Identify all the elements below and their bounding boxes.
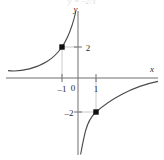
point-marker-neg1-2 — [59, 44, 64, 49]
curve-right-branch — [81, 81, 158, 154]
y-tick-label-neg2: –2 — [64, 108, 74, 118]
graph-figure: y = -2/x y x –1 1 0 2 –2 — [0, 0, 164, 160]
y-axis-label: y — [73, 4, 78, 14]
hyperbola-plot: y x –1 1 0 2 –2 — [0, 0, 164, 160]
x-tick-label-neg1: –1 — [57, 84, 67, 94]
point-marker-1-neg2 — [93, 109, 98, 114]
y-tick-label-pos2: 2 — [86, 43, 91, 53]
x-axis-label: x — [149, 64, 154, 74]
origin-label: 0 — [71, 83, 76, 93]
x-tick-label-pos1: 1 — [94, 84, 99, 94]
curve-left-branch — [8, 12, 76, 71]
